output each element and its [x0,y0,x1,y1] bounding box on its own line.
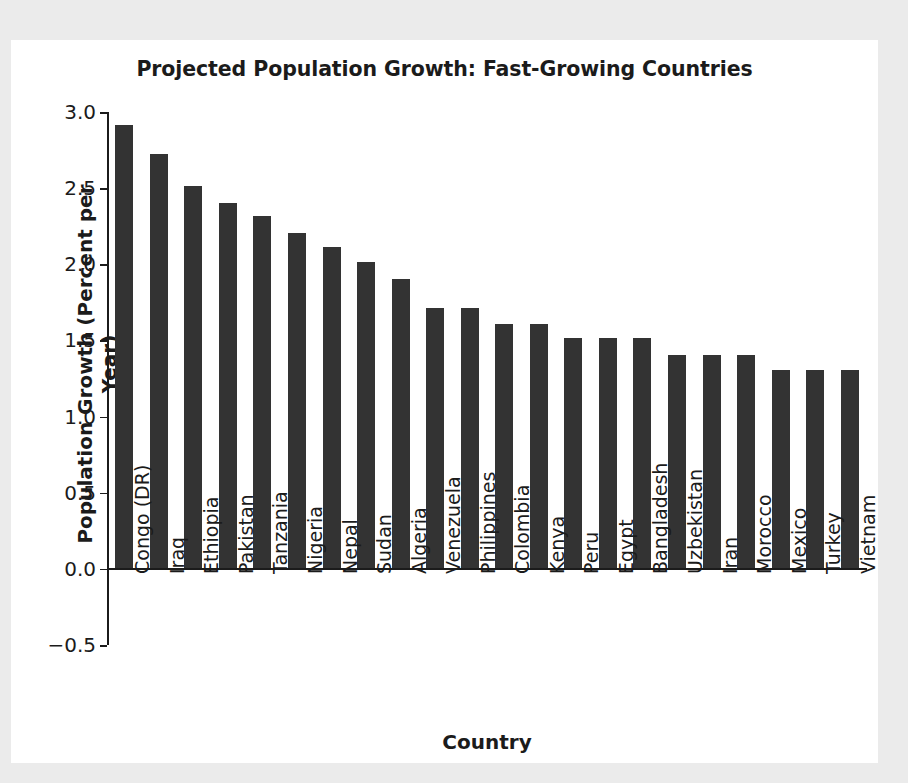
x-tick-label: Sudan [373,514,395,574]
x-tick-label: Venezuela [442,476,464,574]
x-tick-label: Algeria [408,507,430,574]
x-tick-label: Peru [580,532,602,574]
x-tick-label: Egypt [615,519,637,574]
y-tick-mark [100,264,107,266]
x-tick-label: Turkey [822,512,844,574]
y-tick-mark [100,645,107,647]
y-tick-label: 1.5 [64,328,96,352]
x-tick-label: Morocco [753,494,775,574]
x-tick-label: Mexico [788,508,810,574]
x-tick-label: Nepal [339,519,361,574]
y-tick-label: 2.0 [64,252,96,276]
x-tick-label: Bangladesh [649,463,671,574]
x-tick-label: Colombia [511,485,533,574]
x-tick-label: Kenya [546,516,568,574]
x-tick-label: Nigeria [304,506,326,574]
chart-title: Projected Population Growth: Fast-Growin… [11,57,878,81]
y-tick-mark [100,417,107,419]
x-tick-label: Uzbekistan [684,469,706,574]
x-tick-label: Iraq [166,537,188,574]
y-tick-label: −0.5 [47,633,96,657]
x-tick-label: Vietnam [857,495,879,574]
y-tick-mark [100,569,107,571]
y-tick-mark [100,340,107,342]
y-tick-mark [100,112,107,114]
x-axis-title: Country [107,730,867,754]
x-tick-label: Pakistan [235,494,257,574]
x-tick-label: Philippines [477,472,499,574]
y-tick-label: 1.0 [64,405,96,429]
y-tick-mark [100,188,107,190]
y-tick-label: 0.0 [64,557,96,581]
x-axis-tick-labels: Congo (DR)IraqEthiopiaPakistanTanzaniaNi… [107,574,867,724]
x-tick-label: Iran [719,537,741,574]
y-tick-label: 0.5 [64,481,96,505]
y-tick-label: 3.0 [64,100,96,124]
y-tick-label: 2.5 [64,176,96,200]
x-tick-label: Ethiopia [200,497,222,574]
y-tick-mark [100,493,107,495]
figure-card: Projected Population Growth: Fast-Growin… [11,40,878,763]
x-tick-label: Tanzania [269,491,291,574]
x-tick-label: Congo (DR) [131,465,153,574]
